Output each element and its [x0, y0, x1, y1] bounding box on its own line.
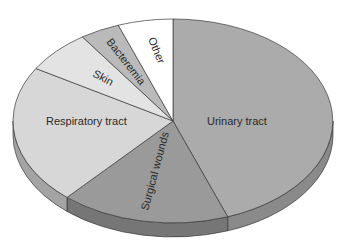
pie-chart: Urinary tract Respiratory tract Surgical… [0, 0, 343, 244]
label-respiratory-tract: Respiratory tract [46, 115, 127, 127]
label-urinary-tract: Urinary tract [207, 115, 267, 127]
